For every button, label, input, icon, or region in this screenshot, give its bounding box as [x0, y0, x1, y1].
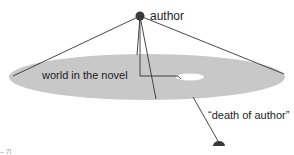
death-label: “death of author” [208, 110, 289, 121]
author-node [136, 12, 145, 21]
author-label: author [150, 10, 184, 22]
window-hole [176, 74, 204, 81]
world-label: world in the novel [42, 70, 128, 81]
dead-author-node [213, 141, 225, 146]
corner-fragment: – 7l [0, 148, 11, 155]
